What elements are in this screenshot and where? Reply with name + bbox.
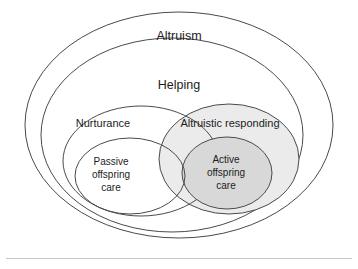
label-passive-offspring-care-line1: Passive bbox=[93, 156, 128, 167]
label-passive-offspring-care-line2: offspring bbox=[92, 169, 130, 180]
label-altruism: Altruism bbox=[156, 29, 201, 43]
label-helping: Helping bbox=[158, 78, 200, 92]
venn-diagram-svg: Altruism Helping Nurturance Altruistic r… bbox=[0, 0, 358, 269]
label-active-offspring-care-line3: care bbox=[216, 180, 236, 191]
label-active-offspring-care-line2: offspring bbox=[207, 167, 245, 178]
label-altruistic-responding: Altruistic responding bbox=[180, 117, 279, 129]
label-nurturance: Nurturance bbox=[76, 117, 130, 129]
label-passive-offspring-care-line3: care bbox=[101, 182, 121, 193]
venn-diagram-figure: Altruism Helping Nurturance Altruistic r… bbox=[0, 0, 358, 269]
label-active-offspring-care-line1: Active bbox=[212, 154, 240, 165]
